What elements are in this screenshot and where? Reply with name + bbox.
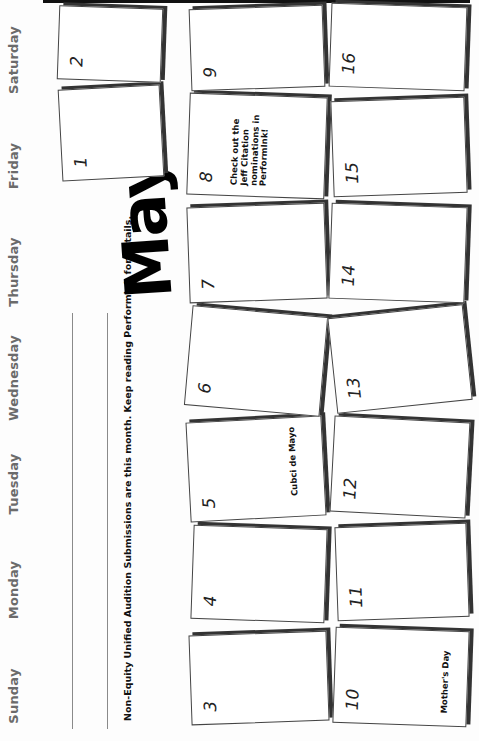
day-card-6[interactable]: 6 xyxy=(184,305,328,416)
day-card-2[interactable]: 2 xyxy=(57,5,164,83)
day-card-4[interactable]: 4 xyxy=(190,525,327,624)
day-card-11[interactable]: 11 xyxy=(334,523,469,622)
day-number: 15 xyxy=(342,162,363,184)
day-name-wednesday: Wednesday xyxy=(6,333,21,423)
day-name-tuesday: Tuesday xyxy=(6,439,21,529)
day-card-5[interactable]: 5 Cubci de Mayo xyxy=(185,416,326,523)
event-label: Check out the Jeff Citation nominations … xyxy=(230,105,272,186)
day-name-friday: Friday xyxy=(6,121,21,211)
calendar-page: Sunday Monday Tuesday Wednesday Thursday… xyxy=(0,0,479,741)
day-number: 13 xyxy=(343,376,365,400)
header-bar xyxy=(43,0,470,3)
day-number: 7 xyxy=(198,279,218,291)
day-number: 5 xyxy=(198,497,219,509)
day-number: 1 xyxy=(70,156,91,168)
day-card-1[interactable]: 1 xyxy=(58,84,165,181)
day-number: 12 xyxy=(339,477,360,500)
day-number: 2 xyxy=(66,56,86,68)
day-number: 3 xyxy=(200,701,220,713)
day-number: 11 xyxy=(345,586,366,608)
day-card-10[interactable]: 10 Mother's Day xyxy=(332,627,469,728)
day-card-7[interactable]: 7 xyxy=(186,203,327,304)
day-number: 6 xyxy=(194,382,215,395)
day-card-13[interactable]: 13 xyxy=(327,304,472,414)
event-label: Mother's Day xyxy=(440,633,453,713)
day-card-3[interactable]: 3 xyxy=(188,631,329,726)
day-name-thursday: Thursday xyxy=(6,227,21,317)
write-in-line xyxy=(72,313,73,729)
day-number: 16 xyxy=(338,52,359,74)
day-card-15[interactable]: 15 xyxy=(330,97,467,198)
day-name-monday: Monday xyxy=(6,545,21,635)
day-number: 8 xyxy=(196,171,216,183)
event-label: Cubci de Mayo xyxy=(287,426,300,496)
day-card-8[interactable]: 8 Check out the Jeff Citation nomination… xyxy=(186,93,327,200)
write-in-line xyxy=(107,313,108,729)
day-name-saturday: Saturday xyxy=(6,15,21,105)
day-number: 9 xyxy=(200,66,220,78)
day-name-sunday: Sunday xyxy=(6,651,21,741)
day-card-14[interactable]: 14 xyxy=(328,203,467,304)
day-number: 10 xyxy=(342,688,363,710)
day-card-12[interactable]: 12 xyxy=(330,416,471,519)
day-card-9[interactable]: 9 xyxy=(189,5,326,92)
day-number: 14 xyxy=(338,264,359,286)
day-card-16[interactable]: 16 xyxy=(329,3,468,92)
day-number: 4 xyxy=(200,595,220,607)
